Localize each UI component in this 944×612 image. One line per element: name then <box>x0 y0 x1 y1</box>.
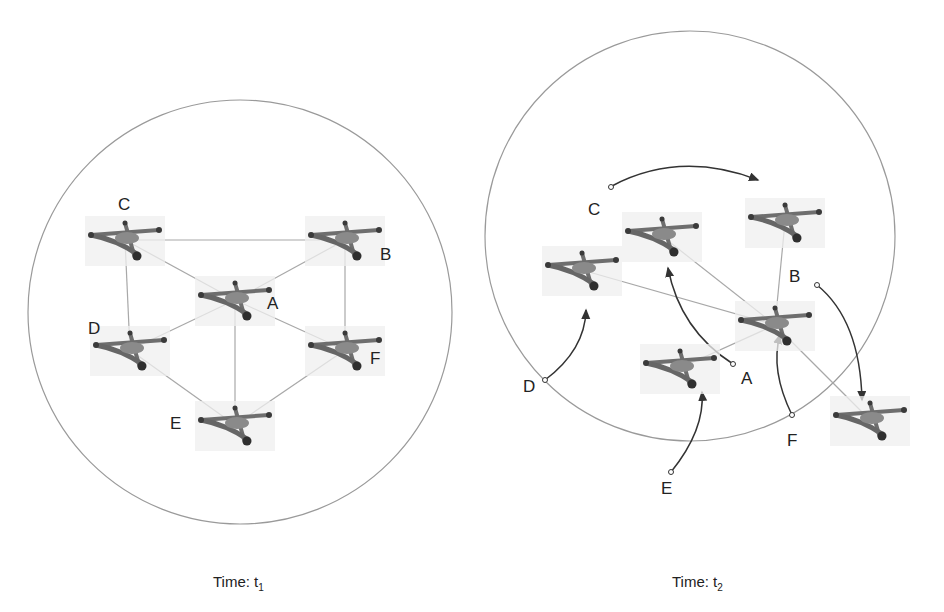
origin-marker <box>790 413 795 418</box>
drone-icon <box>542 246 622 296</box>
e-motion-arrow <box>671 392 702 472</box>
node-label-d: D <box>88 320 100 337</box>
drone-icon <box>830 396 910 446</box>
origin-marker <box>609 185 614 190</box>
drone-icon <box>640 344 720 394</box>
origin-marker <box>543 378 548 383</box>
drone-icon <box>735 301 815 351</box>
node-label-a: A <box>741 370 752 387</box>
drone-icon <box>305 216 385 266</box>
drone-icon <box>745 198 825 248</box>
caption-t2-prefix: Time: t <box>672 573 717 590</box>
drone-icon <box>195 276 275 326</box>
node-label-f: F <box>370 350 380 367</box>
node-label-c: C <box>118 196 130 213</box>
drone-icon <box>85 216 165 266</box>
drone-icon <box>195 401 275 451</box>
caption-t1-prefix: Time: t <box>213 573 258 590</box>
caption-t2-subscript: 2 <box>717 582 723 593</box>
drone-icon <box>90 326 170 376</box>
drone-icon <box>622 212 702 262</box>
node-label-a: A <box>267 295 278 312</box>
node-label-e: E <box>661 480 672 497</box>
panel-t1 <box>28 100 452 524</box>
b-motion-arrow <box>817 285 862 400</box>
origin-marker <box>669 470 674 475</box>
origin-marker <box>815 283 820 288</box>
origin-marker <box>731 362 736 367</box>
node-label-d: D <box>523 378 535 395</box>
node-label-e: E <box>170 415 181 432</box>
panel-t2 <box>485 31 910 475</box>
c-motion-arrow <box>612 166 758 186</box>
node-label-b: B <box>380 246 391 263</box>
node-label-c: C <box>588 201 600 218</box>
caption-t1-subscript: 1 <box>258 582 264 593</box>
caption-t2: Time: t2 <box>672 574 723 593</box>
caption-t1: Time: t1 <box>213 574 264 593</box>
node-label-b: B <box>789 268 800 285</box>
d-motion-arrow <box>545 310 586 380</box>
network-diagram <box>0 0 944 612</box>
node-label-f: F <box>787 432 797 449</box>
